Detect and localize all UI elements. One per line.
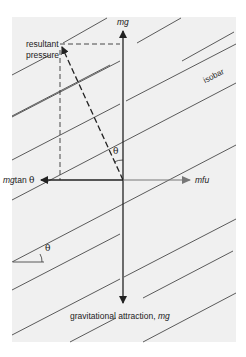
mgtan-theta-label: mgtan θ	[3, 176, 34, 185]
resultant-pressure-arrow	[62, 47, 123, 180]
angle-arc	[40, 254, 42, 262]
theta-symbol: θ	[29, 175, 34, 185]
mfu-label: mfu	[195, 176, 209, 185]
tan-text: tan	[15, 175, 29, 185]
theta-center-label: θ	[113, 147, 118, 156]
theta-corner-label: θ	[45, 244, 50, 253]
gravitational-mg: mg	[158, 311, 170, 321]
mgtan-text: mg	[3, 175, 15, 185]
mg-top-label: mg	[117, 18, 129, 27]
resultant-label-line1: resultant	[26, 40, 59, 49]
gravitational-text: gravitational attraction,	[70, 311, 158, 321]
resultant-label-line2: pressure	[26, 51, 59, 60]
theta-arc-center	[114, 160, 123, 162]
gravitational-attraction-label: gravitational attraction, mg	[70, 312, 170, 321]
